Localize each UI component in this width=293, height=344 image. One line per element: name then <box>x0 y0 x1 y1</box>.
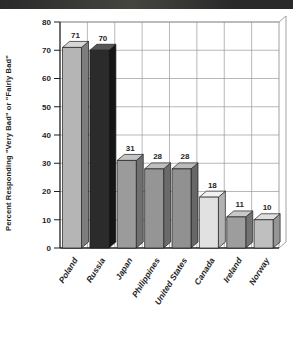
bar-side-face <box>109 44 116 248</box>
value-label-united-states: 28 <box>181 152 190 161</box>
category-label-russia: Russia <box>84 255 107 284</box>
bar-poland <box>63 41 89 248</box>
top-banner <box>0 0 293 9</box>
category-label-ireland: Ireland <box>221 255 245 284</box>
category-label-japan: Japan <box>113 256 134 282</box>
y-tick-label-0: 0 <box>47 244 52 253</box>
y-tick-label-80: 80 <box>42 18 51 27</box>
bar-front-face <box>117 160 136 248</box>
y-tick-label-40: 40 <box>42 131 51 140</box>
y-tick-label-70: 70 <box>42 46 51 55</box>
bar-front-face <box>90 50 109 248</box>
y-tick-label-20: 20 <box>42 187 51 196</box>
y-tick-label-30: 30 <box>42 159 51 168</box>
category-label-poland: Poland <box>56 255 80 285</box>
bar-side-face <box>82 41 89 248</box>
bar-united-states <box>172 163 198 248</box>
bar-ireland <box>227 211 253 248</box>
category-label-norway: Norway <box>247 255 272 286</box>
bar-side-face <box>191 163 198 248</box>
bar-russia <box>90 44 116 248</box>
figure-page: 01020304050607080Percent Responding "Ver… <box>0 0 293 344</box>
value-label-poland: 71 <box>71 31 80 40</box>
y-tick-label-50: 50 <box>42 103 51 112</box>
bar-front-face <box>145 169 164 248</box>
y-axis-title: Percent Responding "Very Bad" or "Fairly… <box>4 55 13 231</box>
value-label-ireland: 11 <box>236 200 245 209</box>
bar-norway <box>254 214 280 248</box>
value-label-norway: 10 <box>263 203 272 212</box>
bar-side-face <box>218 191 225 248</box>
value-label-canada: 18 <box>208 181 217 190</box>
bar-chart: 01020304050607080Percent Responding "Ver… <box>0 0 293 344</box>
bar-front-face <box>199 197 218 248</box>
bar-front-face <box>63 47 82 248</box>
bar-front-face <box>227 217 246 248</box>
value-label-japan: 31 <box>126 144 135 153</box>
y-tick-label-60: 60 <box>42 74 51 83</box>
bar-side-face <box>246 211 253 248</box>
y-axis-ticks: 01020304050607080 <box>42 18 60 253</box>
category-label-canada: Canada <box>192 255 217 286</box>
value-label-philippines: 28 <box>153 152 162 161</box>
bar-front-face <box>254 220 273 248</box>
bar-front-face <box>172 169 191 248</box>
bar-side-face <box>164 163 171 248</box>
bar-japan <box>117 154 143 248</box>
value-label-russia: 70 <box>98 34 107 43</box>
y-tick-label-10: 10 <box>42 216 51 225</box>
bar-side-face <box>136 154 143 248</box>
bar-canada <box>199 191 225 248</box>
bar-philippines <box>145 163 171 248</box>
